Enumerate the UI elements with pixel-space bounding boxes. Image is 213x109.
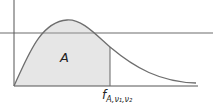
critical-value-label: fA,ν₁,ν₂ [102, 88, 132, 104]
area-label: A [60, 50, 69, 65]
critical-value-subscript: A,ν₁,ν₂ [106, 95, 132, 104]
